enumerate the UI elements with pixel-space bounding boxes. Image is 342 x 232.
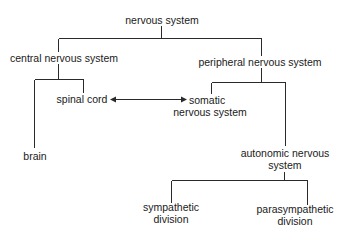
node-sympathetic-division: sympathetic division bbox=[136, 201, 206, 225]
node-label: nervous system bbox=[120, 14, 204, 26]
node-brain: brain bbox=[18, 150, 52, 162]
node-autonomic-nervous-system: autonomic nervous system bbox=[236, 147, 334, 171]
node-label: central nervous system bbox=[8, 52, 120, 64]
node-label-line2: division bbox=[252, 215, 338, 227]
node-label-line1: autonomic nervous bbox=[236, 147, 334, 159]
node-label: spinal cord bbox=[55, 93, 109, 105]
node-peripheral-nervous-system: peripheral nervous system bbox=[197, 56, 323, 68]
node-label-line1: sympathetic bbox=[136, 201, 206, 213]
node-label-line2: nervous system bbox=[170, 106, 250, 118]
node-parasympathetic-division: parasympathetic division bbox=[252, 203, 338, 227]
node-label: peripheral nervous system bbox=[197, 56, 323, 68]
node-label-line1: somatic bbox=[170, 94, 250, 106]
node-label-line1: parasympathetic bbox=[252, 203, 338, 215]
node-spinal-cord: spinal cord bbox=[55, 93, 109, 105]
node-label: brain bbox=[18, 150, 52, 162]
node-central-nervous-system: central nervous system bbox=[8, 52, 120, 64]
node-somatic-nervous-system: somatic nervous system bbox=[170, 94, 250, 118]
node-label-line2: division bbox=[136, 213, 206, 225]
node-nervous-system: nervous system bbox=[120, 14, 204, 26]
node-label-line2: system bbox=[236, 159, 334, 171]
